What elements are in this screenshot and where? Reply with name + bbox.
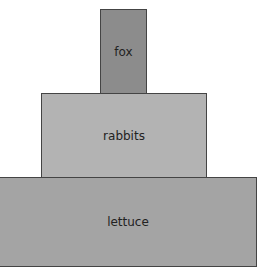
level-label: lettuce	[107, 215, 149, 229]
pyramid-level-lettuce: lettuce	[0, 177, 257, 267]
pyramid-level-fox: fox	[100, 9, 147, 94]
level-label: rabbits	[103, 129, 145, 143]
pyramid-level-rabbits: rabbits	[41, 93, 207, 178]
level-label: fox	[114, 45, 132, 59]
